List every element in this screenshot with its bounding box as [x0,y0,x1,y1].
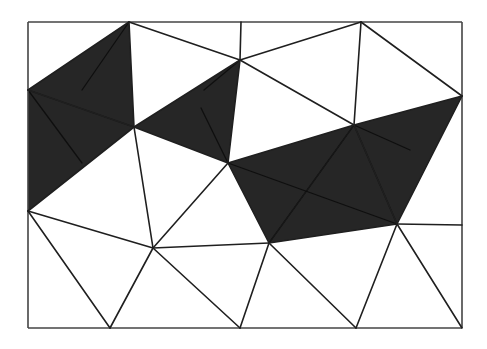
mesh-edge [269,243,356,328]
mesh-edge [356,224,397,328]
mesh-edge [354,22,361,125]
mesh-edge [240,22,241,60]
triangulation-diagram [0,0,487,349]
mesh-edge [28,211,110,328]
mesh-edge [153,243,269,248]
mesh-edge [28,211,153,248]
mesh-edge [110,248,153,328]
mesh-edge [240,60,354,125]
mesh-edge [134,127,153,248]
mesh-edge [129,22,240,60]
mesh-edge [153,163,228,248]
triangulation-svg [0,0,487,349]
mesh-edge [397,224,462,328]
mesh-edge [153,248,240,328]
mesh-edge [240,243,269,328]
mesh-edge [361,22,462,96]
shaded-regions [28,22,462,243]
mesh-edge [240,22,361,60]
mesh-edge [397,224,462,225]
